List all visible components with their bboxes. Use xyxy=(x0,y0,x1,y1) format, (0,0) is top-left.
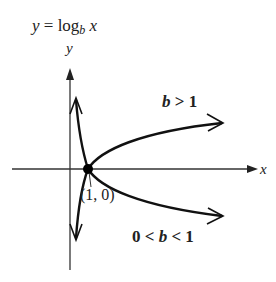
y-axis-label: y xyxy=(66,40,73,57)
point-1-0 xyxy=(83,164,93,174)
label-post: < 1 xyxy=(167,227,194,246)
label-pre: 0 < xyxy=(132,227,159,246)
title-rhs: x xyxy=(85,16,97,35)
label-b-less-1: 0 < b < 1 xyxy=(132,227,194,247)
curve-b-greater-1 xyxy=(88,123,222,169)
title-lhs: y xyxy=(32,16,40,35)
label-var: b xyxy=(159,227,168,246)
label-b-greater-1: b > 1 xyxy=(162,92,197,112)
arrow-b-greater-1-icon xyxy=(207,114,223,131)
curve-b-less-1-left xyxy=(76,100,88,169)
log-graph-diagram: y = logb x y x (1, 0) b > 1 0 < b < 1 xyxy=(0,0,276,282)
y-axis-arrow-icon xyxy=(66,68,74,80)
title-eq: = log xyxy=(40,16,80,35)
graph-title: y = logb x xyxy=(32,16,97,38)
x-axis-label: x xyxy=(260,161,267,178)
x-axis-arrow-icon xyxy=(247,165,258,173)
label-var: b xyxy=(162,92,171,111)
label-post: > 1 xyxy=(171,92,198,111)
point-label: (1, 0) xyxy=(80,186,115,204)
